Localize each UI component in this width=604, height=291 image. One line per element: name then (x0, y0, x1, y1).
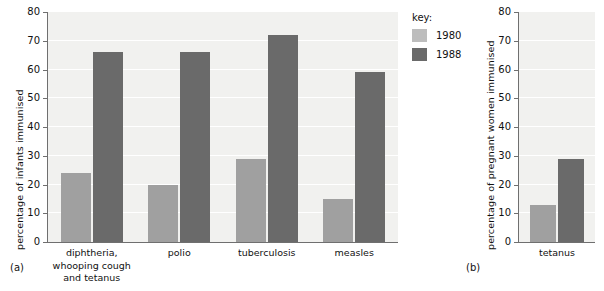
y-axis-line-a (47, 12, 48, 242)
x-axis-line-a (47, 242, 398, 243)
bar-1980-0 (530, 205, 556, 242)
gridline (519, 69, 595, 70)
y-tick-label: 70 (498, 35, 511, 47)
legend-label-1980: 1980 (436, 30, 461, 41)
plot-area-a (48, 12, 398, 242)
gridline (519, 155, 595, 156)
category-label-line: tuberculosis (223, 247, 311, 260)
y-tick-mark (43, 98, 47, 99)
y-tick-mark (514, 12, 518, 13)
y-tick-label: 60 (498, 64, 511, 76)
legend-item-1980: 1980 (412, 29, 482, 42)
x-axis-line-b (518, 242, 595, 243)
y-tick-mark (514, 156, 518, 157)
category-label: tetanus (519, 247, 595, 260)
category-label-line: and tetanus (48, 272, 136, 285)
y-tick-mark (514, 41, 518, 42)
category-label: polio (136, 247, 224, 260)
category-label-line: whooping cough (48, 260, 136, 273)
gridline (519, 126, 595, 127)
y-axis-ticks-b: 01020304050607080 (489, 12, 511, 242)
y-tick-label: 60 (27, 64, 40, 76)
y-axis-ticks-a: 01020304050607080 (18, 12, 40, 242)
bar-1988-3 (355, 72, 385, 242)
legend-title: key: (412, 12, 482, 23)
y-tick-label: 50 (27, 92, 40, 104)
y-tick-label: 50 (498, 92, 511, 104)
y-tick-label: 80 (27, 6, 40, 18)
y-tick-label: 70 (27, 35, 40, 47)
y-tick-mark (514, 70, 518, 71)
bar-1980-2 (236, 159, 266, 242)
y-tick-mark (514, 185, 518, 186)
category-label-line: tetanus (519, 247, 595, 260)
y-axis-line-b (518, 12, 519, 242)
category-label-line: measles (311, 247, 399, 260)
y-tick-label: 10 (498, 207, 511, 219)
y-tick-mark (43, 213, 47, 214)
y-tick-label: 0 (34, 236, 40, 248)
y-tick-mark (514, 98, 518, 99)
legend-swatch-1980 (412, 29, 427, 42)
category-label-line: polio (136, 247, 224, 260)
y-tick-mark (43, 12, 47, 13)
bar-1988-0 (558, 159, 584, 242)
gridline (519, 97, 595, 98)
panel-caption-b: (b) (466, 262, 480, 273)
y-tick-label: 80 (498, 6, 511, 18)
bar-1988-2 (268, 35, 298, 242)
bar-1980-0 (61, 173, 91, 242)
y-tick-label: 20 (498, 179, 511, 191)
bar-1980-1 (148, 185, 178, 243)
legend: key: 1980 1988 (412, 12, 482, 67)
y-tick-mark (43, 41, 47, 42)
legend-swatch-1988 (412, 48, 427, 61)
gridline (519, 40, 595, 41)
y-tick-mark (514, 127, 518, 128)
y-tick-mark (43, 185, 47, 186)
y-tick-label: 20 (27, 179, 40, 191)
plot-area-b (519, 12, 595, 242)
y-tick-mark (43, 156, 47, 157)
y-tick-label: 0 (505, 236, 511, 248)
y-tick-mark (43, 70, 47, 71)
y-tick-label: 30 (498, 150, 511, 162)
y-tick-label: 40 (27, 121, 40, 133)
y-tick-mark (43, 242, 47, 243)
y-tick-label: 10 (27, 207, 40, 219)
category-label: measles (311, 247, 399, 260)
panel-caption-a: (a) (10, 262, 24, 273)
legend-label-1988: 1988 (436, 49, 461, 60)
gridline (48, 40, 398, 41)
bar-1988-1 (180, 52, 210, 242)
category-label-line: diphtheria, (48, 247, 136, 260)
y-tick-mark (514, 242, 518, 243)
y-tick-label: 40 (498, 121, 511, 133)
bar-1988-0 (93, 52, 123, 242)
y-tick-mark (43, 127, 47, 128)
bar-1980-3 (323, 199, 353, 242)
y-tick-label: 30 (27, 150, 40, 162)
category-label: tuberculosis (223, 247, 311, 260)
y-tick-mark (514, 213, 518, 214)
category-label: diphtheria,whooping coughand tetanus (48, 247, 136, 285)
legend-item-1988: 1988 (412, 48, 482, 61)
